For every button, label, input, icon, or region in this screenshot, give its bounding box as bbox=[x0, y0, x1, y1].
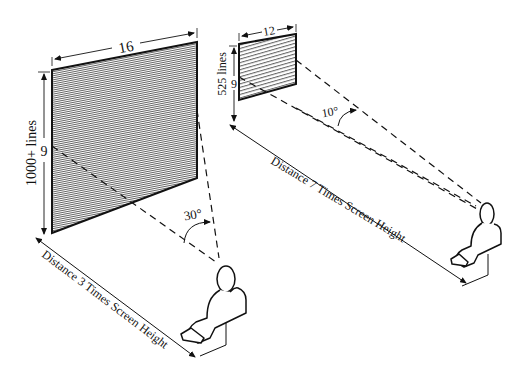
hd-lines-label: 1000+ lines bbox=[24, 120, 39, 186]
sd-screen bbox=[239, 34, 296, 100]
hd-height-label: 9 bbox=[41, 144, 48, 159]
sd-angle-arc bbox=[338, 110, 356, 126]
sd-lines-label: 525 lines bbox=[215, 52, 229, 96]
sd-screen-group: 12 9 525 lines bbox=[215, 23, 296, 121]
sd-distance-label: Distance 7 Times Screen Height bbox=[268, 154, 408, 246]
sd-distance: Distance 7 Times Screen Height bbox=[230, 125, 466, 283]
hd-distance: Distance 3 Times Screen Height bbox=[36, 238, 195, 357]
sd-viewer-icon bbox=[451, 203, 501, 286]
sd-height-label: 9 bbox=[231, 77, 237, 91]
hd-width-label: 16 bbox=[117, 38, 135, 57]
hd-angle-label: 30° bbox=[183, 206, 204, 224]
hd-angle-arc bbox=[184, 222, 210, 243]
hd-screen-group: 16 9 1000+ lines bbox=[24, 28, 197, 234]
hd-width-dimension-right bbox=[140, 33, 194, 43]
hd-width-dimension-left bbox=[55, 48, 112, 59]
viewing-distance-diagram: 16 9 1000+ lines 30° Distance 3 Times Sc… bbox=[0, 0, 525, 376]
sd-width-dimension-left bbox=[242, 32, 262, 36]
sd-angle-label: 10° bbox=[321, 104, 340, 121]
hd-screen bbox=[52, 42, 197, 233]
sd-width-dimension-right bbox=[277, 27, 293, 30]
hd-viewer-icon bbox=[181, 266, 246, 356]
sd-width-label: 12 bbox=[262, 23, 276, 39]
hd-distance-label: Distance 3 Times Screen Height bbox=[39, 247, 171, 352]
